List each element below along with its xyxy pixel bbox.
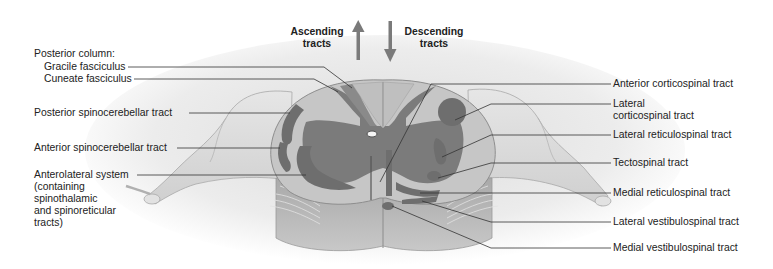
anterolateral-line3: spinothalamic: [34, 193, 129, 205]
label-lateral-vestibulospinal-tract: Lateral vestibulospinal tract: [613, 216, 739, 228]
ascending-header-line2: tracts: [282, 38, 352, 50]
cord-cross-section: [271, 80, 496, 210]
anterolateral-line1: Anterolateral system: [34, 169, 129, 181]
lateral-corticospinal-line2: corticospinal tract: [613, 110, 694, 122]
label-posterior-column: Posterior column:: [34, 48, 115, 60]
label-posterior-spinocerebellar-tract: Posterior spinocerebellar tract: [34, 107, 172, 119]
anterolateral-line5: tracts): [34, 217, 129, 229]
label-medial-vestibulospinal-tract: Medial vestibulospinal tract: [613, 242, 738, 254]
tectospinal-region: [427, 171, 441, 181]
ascending-tracts-header: Ascending tracts: [282, 26, 352, 50]
label-medial-reticulospinal-tract: Medial reticulospinal tract: [613, 187, 730, 199]
lateral-corticospinal-line1: Lateral: [613, 98, 694, 110]
label-lateral-corticospinal-tract: Lateral corticospinal tract: [613, 98, 694, 122]
label-anterior-spinocerebellar-tract: Anterior spinocerebellar tract: [34, 142, 167, 154]
label-gracile-fasciculus: Gracile fasciculus: [44, 61, 125, 73]
label-lateral-reticulospinal-tract: Lateral reticulospinal tract: [613, 129, 731, 141]
label-cuneate-fasciculus: Cuneate fasciculus: [44, 73, 132, 85]
anterior-corticospinal-region: [386, 150, 392, 196]
anterolateral-line2: (containing: [34, 181, 129, 193]
anterolateral-line4: and spinoreticular: [34, 205, 129, 217]
descending-tracts-header: Descending tracts: [396, 26, 472, 50]
descending-header-line1: Descending: [396, 26, 472, 38]
spinal-cord-tracts-diagram: Ascending tracts Descending tracts Poste…: [0, 0, 773, 269]
ascending-header-line1: Ascending: [282, 26, 352, 38]
lateral-corticospinal-region: [438, 98, 466, 126]
label-tectospinal-tract: Tectospinal tract: [613, 157, 688, 169]
label-anterior-corticospinal-tract: Anterior corticospinal tract: [613, 78, 733, 90]
label-anterolateral-system: Anterolateral system (containing spinoth…: [34, 169, 129, 229]
descending-header-line2: tracts: [396, 38, 472, 50]
